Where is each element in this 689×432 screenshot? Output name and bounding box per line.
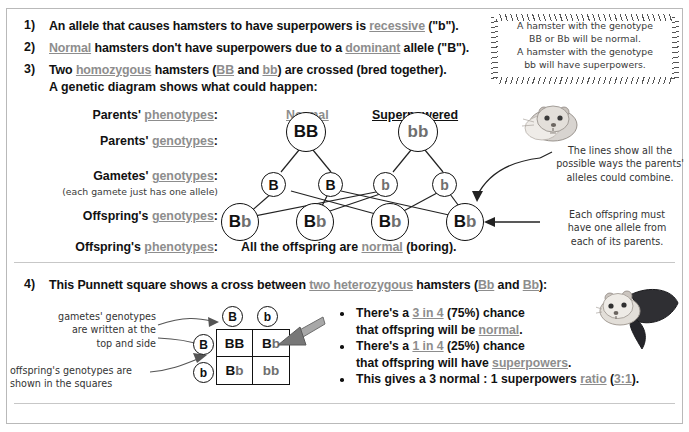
parent-node-bb-label: bb: [408, 122, 429, 142]
punnett-square: BB Bb Bb bb: [216, 329, 290, 385]
offspring-node-4-label-bold: B: [454, 212, 466, 232]
punnett-note-top-line: are written at the: [58, 323, 156, 336]
superhero-hamster-illustration: [596, 283, 682, 359]
punnett-note-bottom: offspring's genotypes are shown in the s…: [10, 364, 150, 391]
worksheet-page: 1) An allele that causes hamsters to hav…: [0, 0, 689, 432]
punnett-cell-1-0: Bb: [217, 357, 253, 384]
punnett-col-header-B: B: [222, 306, 243, 327]
punnett-note-top-line: top and side: [58, 337, 156, 350]
list-number-2: 2): [24, 40, 35, 54]
offspring-node-1-label-light: b: [241, 212, 251, 232]
annotation-offspring-note: Each offspring must have one allele from…: [550, 208, 684, 248]
punnett-cell-1-0-bold: B: [226, 363, 236, 378]
list-number-3: 3): [24, 62, 35, 76]
bullet-dot-2: [340, 345, 344, 349]
row-label-offspring-phenotypes: Offspring's phenotypes:: [0, 240, 218, 254]
bullet-2: There's a 1 in 4 (25%) chance that offsp…: [356, 338, 571, 371]
gamete-node-B-2: B: [318, 172, 343, 197]
bullet-2-line-2: that offspring will have superpowers.: [356, 355, 571, 372]
punnett-cell-0-1: Bb: [253, 330, 289, 357]
parent-node-BB-label: BB: [294, 122, 319, 142]
offspring-node-2: Bb: [296, 203, 334, 241]
punnett-cell-1-0-light: b: [235, 363, 243, 378]
bullet-1-line-1: There's a 3 in 4 (75%) chance: [356, 305, 525, 322]
punnett-row-header-b: b: [193, 362, 214, 383]
punnett-cell-0-1-light: b: [272, 336, 280, 351]
sticky-note-edge-bottom: [496, 77, 674, 84]
punnett-cell-0-1-bold: B: [262, 336, 272, 351]
sticky-note-line: A hamster with the genotype: [502, 19, 668, 32]
gamete-node-b-2: b: [432, 172, 457, 197]
punnett-col-header-b: b: [257, 306, 278, 327]
offspring-node-2-label-light: b: [316, 212, 326, 232]
bullet-dot-3: [340, 378, 344, 382]
list-item-3-text: Two homozygous hamsters (BB and bb) are …: [49, 62, 447, 79]
bullet-3-line-1: This gives a 3 normal : 1 superpowers ra…: [356, 371, 639, 388]
bullet-3: This gives a 3 normal : 1 superpowers ra…: [356, 371, 639, 388]
page-border-bottom: [6, 423, 683, 424]
punnett-cell-0-0-bold: BB: [225, 336, 245, 351]
annotation-offspring-note-line: each of its parents.: [550, 235, 684, 248]
offspring-node-4: Bb: [446, 203, 484, 241]
sticky-note-text: A hamster with the genotype BB or Bb wil…: [490, 19, 680, 71]
list-item-4-text: This Punnett square shows a cross betwee…: [49, 277, 547, 294]
list-number-4: 4): [24, 277, 35, 291]
annotation-offspring-note-line: Each offspring must: [550, 208, 684, 221]
offspring-node-3-label-bold: B: [379, 212, 391, 232]
offspring-node-3-label-light: b: [391, 212, 401, 232]
row-label-offspring-genotypes: Offspring's genotypes:: [0, 209, 218, 223]
offspring-node-3: Bb: [371, 203, 409, 241]
gamete-node-b-2-label: b: [440, 177, 449, 193]
offspring-node-2-label-bold: B: [304, 212, 316, 232]
offspring-phenotype-conclusion: All the offspring are normal (boring).: [241, 240, 456, 254]
gamete-node-b-1: b: [373, 172, 398, 197]
punnett-row-header-B: B: [193, 334, 214, 355]
bullet-1-line-2: that offspring will be normal.: [356, 322, 525, 339]
gamete-node-b-1-label: b: [381, 177, 390, 193]
punnett-note-top: gametes' genotypes are written at the to…: [58, 310, 156, 350]
row-label-gametes-genotypes: Gametes' genotypes:: [0, 169, 218, 183]
punnett-cell-1-1: bb: [253, 357, 289, 384]
list-item-2-text: Normal hamsters don't have superpowers d…: [49, 40, 469, 57]
parent-node-BB: BB: [286, 112, 326, 152]
offspring-node-1-label-bold: B: [229, 212, 241, 232]
offspring-node-1: Bb: [221, 203, 259, 241]
punnett-cell-0-0: BB: [217, 330, 253, 357]
footer-divider: [14, 403, 675, 404]
section-divider: [14, 262, 675, 263]
sticky-note-line: bb will have superpowers.: [502, 58, 668, 71]
bullet-2-line-1: There's a 1 in 4 (25%) chance: [356, 338, 571, 355]
row-label-parents-phenotypes: Parents' phenotypes:: [0, 108, 218, 122]
list-number-1: 1): [24, 18, 35, 32]
normal-hamster-illustration: [520, 98, 584, 148]
annotation-lines-note: The lines show all the possible ways the…: [556, 144, 684, 184]
bullet-dot-1: [340, 312, 344, 316]
row-label-parents-genotypes: Parents' genotypes:: [0, 134, 218, 148]
punnett-note-bottom-line: shown in the squares: [10, 377, 150, 390]
gamete-note: (each gamete just has one allele): [0, 186, 218, 197]
list-item-3-subtext: A genetic diagram shows what could happe…: [49, 80, 318, 94]
gamete-node-B-2-label: B: [325, 177, 335, 193]
annotation-lines-note-line: possible ways the parents': [556, 157, 684, 170]
sticky-note-line: A hamster with the genotype: [502, 45, 668, 58]
gamete-node-B-1: B: [261, 172, 286, 197]
parent-node-bb: bb: [398, 112, 438, 152]
offspring-node-4-label-light: b: [466, 212, 476, 232]
list-item-1-text: An allele that causes hamsters to have s…: [49, 18, 459, 35]
annotation-lines-note-line: alleles could combine.: [556, 171, 684, 184]
punnett-cell-1-1-light: bb: [263, 363, 280, 378]
sticky-note: A hamster with the genotype BB or Bb wil…: [490, 12, 680, 86]
gamete-node-B-1-label: B: [268, 177, 278, 193]
punnett-note-top-line: gametes' genotypes: [58, 310, 156, 323]
page-border-top: [6, 8, 683, 9]
annotation-offspring-note-line: have one allele from: [550, 221, 684, 234]
sticky-note-line: BB or Bb will be normal.: [502, 32, 668, 45]
punnett-note-bottom-line: offspring's genotypes are: [10, 364, 150, 377]
bullet-1: There's a 3 in 4 (75%) chance that offsp…: [356, 305, 525, 338]
